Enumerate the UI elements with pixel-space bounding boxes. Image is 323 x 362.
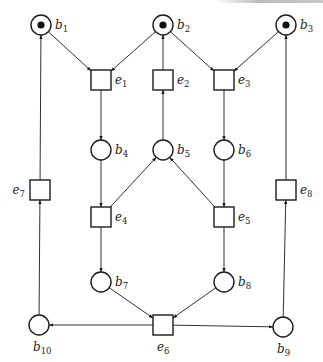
place-b6 bbox=[214, 140, 234, 160]
label-b3: b3 bbox=[300, 18, 313, 34]
nodes-layer bbox=[29, 15, 296, 337]
label-b9: b9 bbox=[277, 342, 290, 358]
arc-e7-to-b1 bbox=[40, 35, 41, 180]
transition-e1 bbox=[91, 70, 111, 90]
place-circle-icon bbox=[273, 317, 293, 337]
label-e4: e4 bbox=[115, 210, 128, 226]
transition-box-icon bbox=[91, 207, 111, 227]
place-b9 bbox=[273, 317, 293, 337]
arc-b2-to-e3 bbox=[170, 32, 214, 71]
place-circle-icon bbox=[91, 140, 111, 160]
token-icon bbox=[282, 21, 289, 28]
arc-b1-to-e1 bbox=[48, 32, 91, 71]
arc-e6-to-b9 bbox=[173, 325, 273, 327]
place-b8 bbox=[214, 272, 234, 292]
token-icon bbox=[37, 21, 44, 28]
label-e1: e1 bbox=[115, 73, 128, 89]
label-e7: e7 bbox=[12, 183, 25, 199]
transition-e3 bbox=[214, 70, 234, 90]
label-b8: b8 bbox=[238, 275, 251, 291]
arc-b3-to-e3 bbox=[234, 32, 279, 71]
transition-e5 bbox=[214, 207, 234, 227]
arc-e5-to-b5 bbox=[170, 157, 215, 207]
place-circle-icon bbox=[29, 315, 49, 335]
label-b10: b10 bbox=[33, 340, 52, 356]
place-b7 bbox=[91, 272, 111, 292]
transition-e4 bbox=[91, 207, 111, 227]
label-e5: e5 bbox=[238, 210, 251, 226]
arc-b8-to-e6 bbox=[173, 288, 216, 318]
label-e8: e8 bbox=[300, 183, 313, 199]
petri-net-diagram: b1b2b3b4b5b6b7b8b9b10e1e2e3e4e5e6e7e8 bbox=[0, 0, 323, 362]
arc-b10-to-e7 bbox=[39, 200, 40, 315]
label-b4: b4 bbox=[115, 143, 128, 159]
transition-box-icon bbox=[214, 70, 234, 90]
label-b5: b5 bbox=[177, 143, 190, 159]
transition-e7 bbox=[30, 180, 50, 200]
place-circle-icon bbox=[153, 140, 173, 160]
place-b4 bbox=[91, 140, 111, 160]
transition-box-icon bbox=[276, 180, 296, 200]
token-icon bbox=[159, 21, 166, 28]
transition-box-icon bbox=[153, 315, 173, 335]
place-b10 bbox=[29, 315, 49, 335]
place-b2 bbox=[153, 15, 173, 35]
arc-b9-to-e8 bbox=[283, 200, 286, 317]
arc-b2-to-e1 bbox=[111, 32, 156, 71]
transition-box-icon bbox=[30, 180, 50, 200]
transition-box-icon bbox=[91, 70, 111, 90]
transition-e8 bbox=[276, 180, 296, 200]
place-b3 bbox=[276, 15, 296, 35]
arc-e4-to-b5 bbox=[110, 157, 156, 207]
label-b6: b6 bbox=[238, 143, 251, 159]
label-e3: e3 bbox=[238, 73, 251, 89]
place-circle-icon bbox=[214, 272, 234, 292]
label-b2: b2 bbox=[177, 18, 190, 34]
place-b5 bbox=[153, 140, 173, 160]
label-e2: e2 bbox=[177, 73, 190, 89]
place-b1 bbox=[31, 15, 51, 35]
label-e6: e6 bbox=[157, 340, 170, 356]
label-b1: b1 bbox=[55, 18, 68, 34]
transition-box-icon bbox=[153, 70, 173, 90]
transition-e2 bbox=[153, 70, 173, 90]
transition-e6 bbox=[153, 315, 173, 335]
place-circle-icon bbox=[91, 272, 111, 292]
arc-b7-to-e6 bbox=[109, 288, 153, 318]
label-b7: b7 bbox=[115, 275, 128, 291]
transition-box-icon bbox=[214, 207, 234, 227]
place-circle-icon bbox=[214, 140, 234, 160]
